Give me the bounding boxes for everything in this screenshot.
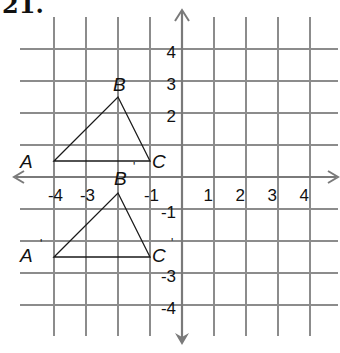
x-tick-label: 3 [268,186,277,205]
y-tick-label: -3 [161,267,176,286]
coordinate-grid: -4-3-11234432-1-3-4 A B C A ' B ' C ' [0,0,340,353]
prime-mark-a: ' [40,237,42,251]
axes [14,10,338,345]
x-tick-label: -4 [48,186,63,205]
vertex-label-c-prime: C [152,245,166,266]
x-tick-label: -1 [144,186,159,205]
x-tick-label: 4 [300,186,309,205]
x-tick-label: 1 [204,186,213,205]
y-tick-label: 2 [167,107,176,126]
vertex-label-a-prime: A [19,245,33,266]
triangle-abc [54,97,150,161]
x-tick-label: -3 [80,186,95,205]
triangle-a-prime-b-prime-c-prime [54,193,150,257]
prime-mark-b: ' [133,160,135,174]
vertex-label-a: A [19,151,33,172]
tick-labels: -4-3-11234432-1-3-4 [48,43,309,318]
diagram-stage: 21. -4-3-11234432-1-3-4 A B C A ' B ' C … [0,0,340,353]
prime-mark-c: ' [171,236,173,250]
y-tick-label: -1 [161,203,176,222]
vertex-label-b-prime: B [114,168,127,189]
problem-number: 21. [2,0,44,19]
y-tick-label: 3 [167,75,176,94]
y-tick-label: -4 [161,299,176,318]
y-tick-label: 4 [167,43,176,62]
vertex-label-b: B [113,74,126,95]
x-tick-label: 2 [236,186,245,205]
vertex-label-c: C [152,151,166,172]
